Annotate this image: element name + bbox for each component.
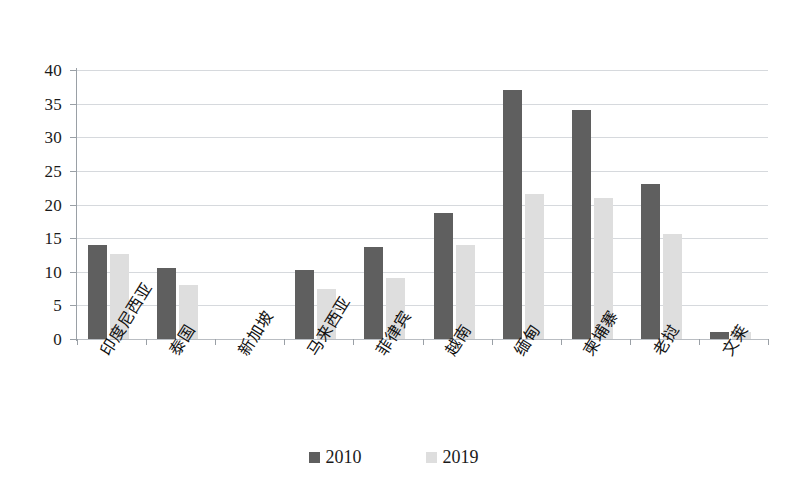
x-axis-tick <box>77 339 78 345</box>
bar-2010 <box>157 268 176 339</box>
y-axis-tick <box>70 305 76 306</box>
x-axis-tick <box>353 339 354 345</box>
bar-group <box>699 70 768 339</box>
y-axis-tick <box>70 205 76 206</box>
legend-swatch-icon <box>309 452 320 463</box>
x-axis-tick <box>561 339 562 345</box>
bar-2010 <box>503 90 522 339</box>
plot-area <box>77 70 768 339</box>
bar-2010 <box>364 247 383 339</box>
bar-group <box>492 70 561 339</box>
y-axis-tick-label: 20 <box>45 196 62 213</box>
legend-item-2019[interactable]: 2019 <box>426 448 479 466</box>
y-axis-tick-label: 10 <box>45 263 62 280</box>
y-axis-tick <box>70 137 76 138</box>
x-axis-tick <box>284 339 285 345</box>
legend-item-2010[interactable]: 2010 <box>309 448 362 466</box>
bar-group <box>353 70 422 339</box>
y-axis-tick-label: 0 <box>53 331 62 348</box>
x-axis-tick <box>423 339 424 345</box>
bar-group <box>423 70 492 339</box>
bar-2010 <box>572 110 591 339</box>
y-axis-tick-label: 40 <box>45 62 62 79</box>
y-axis-tick <box>70 70 76 71</box>
x-axis-tick <box>699 339 700 345</box>
x-axis-tick <box>768 339 769 345</box>
bar-group <box>146 70 215 339</box>
y-axis-tick-label: 35 <box>45 95 62 112</box>
y-axis-tick <box>70 104 76 105</box>
y-axis-tick <box>70 339 76 340</box>
bar-2010 <box>434 213 453 339</box>
x-axis-tick <box>215 339 216 345</box>
y-axis-tick-label: 30 <box>45 129 62 146</box>
bar-2010 <box>88 245 107 339</box>
bar-group <box>561 70 630 339</box>
x-axis-tick <box>492 339 493 345</box>
y-axis-tick <box>70 171 76 172</box>
bar-2010 <box>641 184 660 339</box>
bar-2019 <box>525 194 544 339</box>
y-axis-tick <box>70 238 76 239</box>
x-axis-tick <box>146 339 147 345</box>
bar-group <box>215 70 284 339</box>
legend-swatch-icon <box>426 452 437 463</box>
legend-label: 2010 <box>326 448 362 466</box>
bar-2010 <box>295 270 314 339</box>
chart-legend: 20102019 <box>0 448 787 466</box>
bar-group <box>630 70 699 339</box>
x-axis-tick <box>630 339 631 345</box>
legend-label: 2019 <box>443 448 479 466</box>
bar-chart: 0510152025303540 印度尼西亚泰国新加坡马来西亚菲律宾越南缅甸柬埔… <box>0 0 787 477</box>
y-axis-tick-label: 25 <box>45 162 62 179</box>
y-axis-tick-label: 5 <box>53 297 62 314</box>
y-axis-tick <box>70 272 76 273</box>
y-axis-tick-label: 15 <box>45 230 62 247</box>
